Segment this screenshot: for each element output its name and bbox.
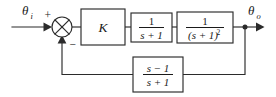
second-order-exponent: 2 xyxy=(217,28,221,37)
feedback-numerator: s − 1 xyxy=(147,62,170,74)
summing-junction xyxy=(52,17,72,37)
input-signal-subscript: i xyxy=(31,11,34,21)
block-diagram-canvas: + − θ i θ o K 1 s + 1 1 (s + 1) xyxy=(0,0,276,97)
gain-block[interactable]: K xyxy=(81,9,125,45)
second-order-block[interactable]: 1 (s + 1) 2 xyxy=(177,12,233,43)
second-order-denominator: (s + 1) xyxy=(188,29,218,42)
output-wire xyxy=(233,23,265,32)
plus-sign-label: + xyxy=(45,9,52,21)
gain-block-label: K xyxy=(97,20,108,35)
second-order-numerator: 1 xyxy=(202,15,208,27)
block-diagram: + − θ i θ o K 1 s + 1 1 (s + 1) xyxy=(0,0,276,97)
output-signal-subscript: o xyxy=(257,11,261,21)
first-order-denominator: s + 1 xyxy=(140,29,163,41)
first-order-block[interactable]: 1 s + 1 xyxy=(131,13,172,42)
input-signal-theta: θ xyxy=(22,3,29,18)
minus-sign-label: − xyxy=(70,38,77,50)
feedback-denominator: s + 1 xyxy=(147,76,170,88)
output-signal-theta: θ xyxy=(248,3,255,18)
input-wire xyxy=(12,23,52,32)
feedback-block[interactable]: s − 1 s + 1 xyxy=(133,57,183,92)
first-order-numerator: 1 xyxy=(149,15,155,27)
output-signal-label: θ o xyxy=(248,3,261,21)
input-signal-label: θ i xyxy=(22,3,34,21)
